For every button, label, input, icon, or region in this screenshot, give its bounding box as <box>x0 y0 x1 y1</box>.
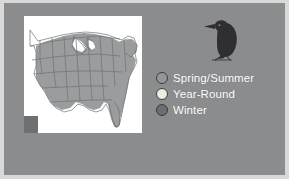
legend-item-label: Winter <box>173 104 207 117</box>
figure-background: Spring/Summer Year-Round Winter <box>4 3 285 175</box>
legend-item-winter[interactable]: Winter <box>156 102 281 118</box>
legend-item-year-round[interactable]: Year-Round <box>156 86 281 102</box>
range-map-graphic <box>24 16 142 133</box>
legend-item-label: Year-Round <box>173 88 235 101</box>
legend-item-label: Spring/Summer <box>173 72 254 85</box>
legend: Spring/Summer Year-Round Winter <box>156 70 281 118</box>
circle-icon <box>156 72 168 84</box>
range-map-figure: Spring/Summer Year-Round Winter <box>0 0 289 179</box>
bird-illustration <box>200 13 246 63</box>
range-map-panel <box>24 16 142 133</box>
circle-icon <box>156 104 168 116</box>
legend-item-spring-summer[interactable]: Spring/Summer <box>156 70 281 86</box>
map-corner-block <box>24 116 38 133</box>
circle-icon <box>156 88 168 100</box>
bird-silhouette-icon <box>200 13 246 63</box>
